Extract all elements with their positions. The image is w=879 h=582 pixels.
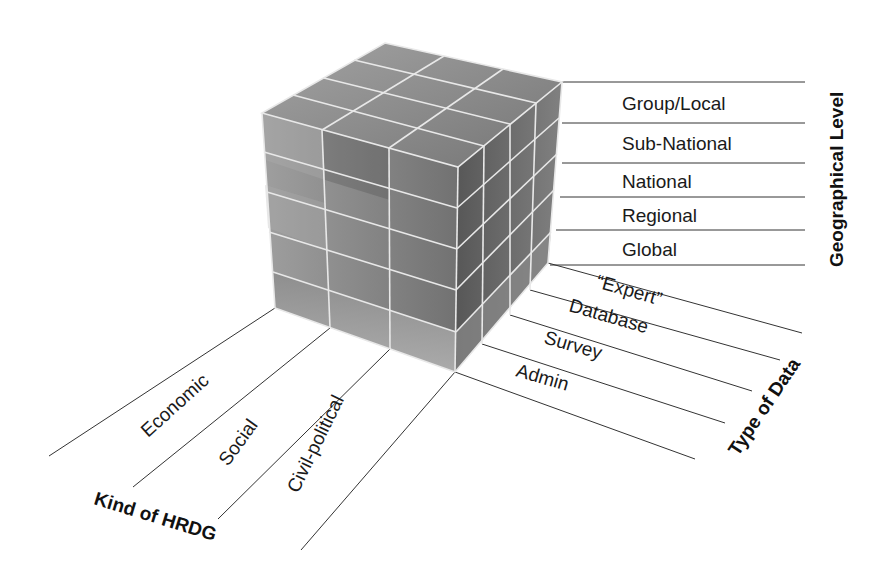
hrdg-kind-civil-political: Civil-political [283,392,348,496]
geo-level-global: Global [622,239,677,260]
type-of-data-labels: “Expert” Database Survey Admin Type of D… [514,271,805,460]
hrdg-kind-economic: Economic [137,370,213,441]
geographical-level-labels: Group/Local Sub-National National Region… [622,92,847,267]
geographical-level-axis-title: Geographical Level [826,92,847,267]
geo-level-national: National [622,171,692,192]
hrdg-cube-diagram: Group/Local Sub-National National Region… [0,0,879,582]
data-cube [262,43,562,372]
hrdg-kind-social: Social [214,415,261,469]
kind-of-hrdg-axis-title: Kind of HRDG [92,488,219,545]
geo-level-sub-national: Sub-National [622,133,732,154]
geo-level-regional: Regional [622,205,697,226]
geo-level-group-local: Group/Local [622,93,726,114]
type-of-data-axis-title: Type of Data [724,354,805,459]
kind-of-hrdg-labels: Economic Social Civil-political Kind of … [92,370,348,545]
data-type-survey: Survey [542,327,605,364]
data-type-admin: Admin [514,360,572,395]
